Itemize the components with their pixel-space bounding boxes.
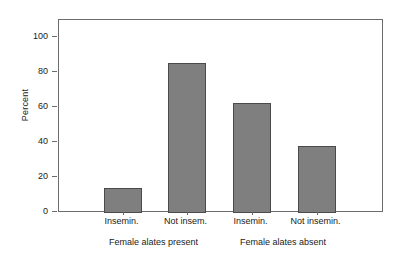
bar xyxy=(233,103,271,213)
y-tick-mark xyxy=(52,141,57,142)
y-tick-label: 100 xyxy=(0,31,48,42)
y-tick-label: 80 xyxy=(0,66,48,77)
plot-area xyxy=(58,19,383,212)
x-group-label: Female alates absent xyxy=(213,236,353,248)
y-tick-label: 60 xyxy=(0,101,48,112)
bar xyxy=(104,188,142,213)
x-group-label: Female alates present xyxy=(84,236,224,248)
bar-chart: Percent 020406080100 Insemin.Not insem.I… xyxy=(0,0,399,258)
y-tick-mark xyxy=(52,176,57,177)
y-tick-label: 0 xyxy=(0,206,48,217)
y-tick-mark xyxy=(52,36,57,37)
y-tick-label: 20 xyxy=(0,171,48,182)
y-tick-mark xyxy=(52,106,57,107)
bar xyxy=(168,63,206,213)
y-tick-mark xyxy=(52,71,57,72)
bar xyxy=(298,146,336,213)
x-category-label: Not insemin. xyxy=(276,215,356,227)
y-tick-mark xyxy=(52,211,57,212)
y-tick-label: 40 xyxy=(0,136,48,147)
